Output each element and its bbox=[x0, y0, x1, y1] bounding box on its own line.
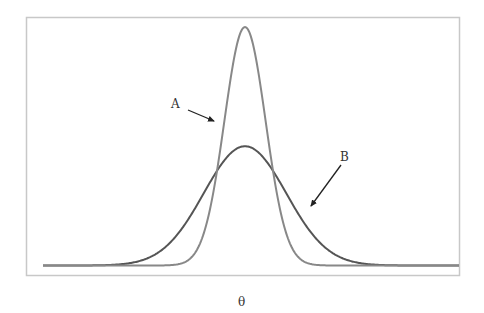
chart: A B θ bbox=[0, 0, 484, 313]
x-axis-label: θ bbox=[238, 295, 245, 309]
label-b: B bbox=[340, 150, 349, 164]
curve-a bbox=[43, 27, 459, 266]
label-a: A bbox=[170, 97, 180, 111]
curve-b bbox=[43, 146, 459, 265]
arrow-b bbox=[311, 165, 341, 206]
arrow-a bbox=[188, 110, 214, 121]
